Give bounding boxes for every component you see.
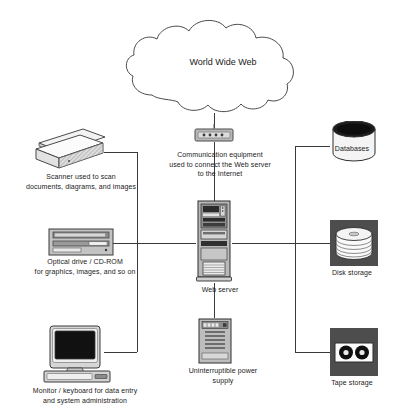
optical-drive-icon	[48, 228, 114, 256]
scanner-label: Scanner used to scan documents, diagrams…	[12, 172, 150, 191]
communication-equipment-label: Communication equipment used to connect …	[152, 150, 288, 179]
workstation-label: Monitor / keyboard for data entry and sy…	[14, 386, 156, 405]
web-server-node[interactable]	[196, 200, 233, 288]
scanner-icon	[31, 127, 107, 171]
optical-drive-label: Optical drive / CD-ROM for graphics, ima…	[16, 257, 154, 276]
scanner-node[interactable]	[31, 127, 107, 175]
disk-storage-node[interactable]	[330, 220, 378, 270]
cloud-label: World Wide Web	[133, 57, 313, 67]
router-icon	[193, 124, 235, 144]
disk-storage-label: Disk storage	[318, 268, 386, 278]
ups-icon	[198, 318, 232, 364]
server-tower-icon	[196, 200, 233, 284]
tape-storage-node[interactable]	[330, 328, 378, 380]
tape-cassette-icon	[330, 328, 378, 376]
databases-label: Databases	[320, 144, 384, 154]
monitor-keyboard-icon	[38, 325, 118, 383]
disk-platter-stack-icon	[330, 220, 378, 266]
optical-drive-node[interactable]	[48, 228, 114, 260]
database-cylinder-icon	[330, 121, 378, 163]
workstation-node[interactable]	[38, 325, 118, 387]
communication-equipment-node[interactable]	[193, 124, 235, 148]
tape-storage-label: Tape storage	[318, 378, 386, 388]
web-server-label: Web server	[178, 285, 262, 295]
ups-label: Uninterruptible power supply	[176, 366, 270, 385]
network-architecture-diagram: World Wide Web Communication equipment u…	[0, 0, 401, 420]
ups-node[interactable]	[198, 318, 232, 368]
